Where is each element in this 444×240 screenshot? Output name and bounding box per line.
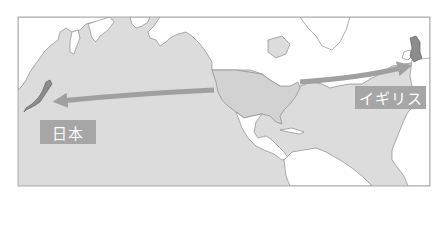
label-japan-text: 日本 — [52, 122, 84, 143]
label-uk-text: イギリス — [359, 87, 423, 108]
label-japan: 日本 — [40, 120, 96, 144]
label-uk: イギリス — [355, 86, 426, 109]
